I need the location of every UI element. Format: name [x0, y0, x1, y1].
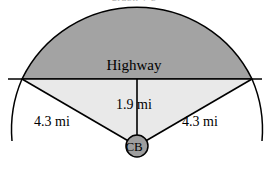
- radius-left-length-label: 4.3 mi: [34, 115, 70, 129]
- radius-right-length-label: 4.3 mi: [182, 115, 218, 129]
- figure-container: graph y p Highway 1.9 mi 4.3 mi 4.3 mi C…: [0, 0, 268, 172]
- highway-label: Highway: [0, 58, 268, 73]
- apothem-length-label: 1.9 mi: [0, 98, 268, 112]
- cb-marker-label: CB: [0, 140, 268, 153]
